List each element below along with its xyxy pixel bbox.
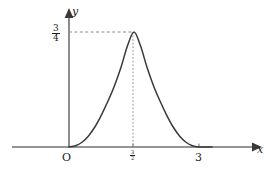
fraction-three-quarters: 3 4 [52, 24, 60, 43]
y-axis-label: y [72, 6, 78, 17]
y-tick-label-three-quarters: 3 4 [52, 24, 60, 43]
x-tick-label-three-halves: 3 2 [130, 150, 135, 161]
fraction-denominator: 2 [130, 156, 135, 161]
figure-canvas: y x O 3 4 3 2 3 [0, 0, 269, 179]
fraction-three-halves: 3 2 [130, 150, 135, 161]
x-tick-label-three: 3 [195, 152, 202, 163]
data-curve [69, 32, 212, 147]
origin-label: O [62, 152, 71, 163]
fraction-denominator: 4 [52, 34, 60, 43]
x-axis-label: x [257, 144, 263, 155]
